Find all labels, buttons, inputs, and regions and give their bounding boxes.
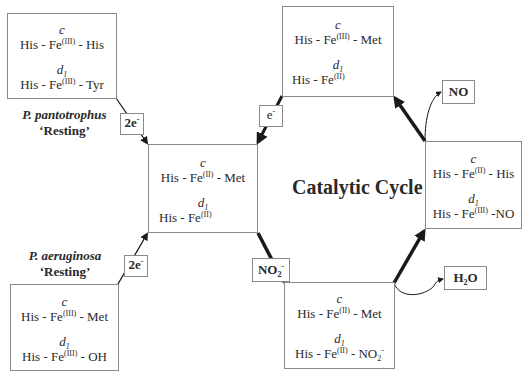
heme-c-ligation: His - Fe(III) - His — [8, 37, 116, 52]
heme-c-label: c — [283, 17, 393, 32]
heme-c-label: c — [11, 294, 118, 309]
heme-c-label: c — [426, 151, 521, 166]
diagram-title: Catalytic Cycle — [292, 176, 423, 199]
label-two-electrons-bottom: 2e- — [124, 255, 148, 277]
heme-d1-ligation: His - Fe(II) — [149, 210, 257, 225]
heme-c-ligation: His - Fe(II) - Met — [285, 306, 394, 321]
species-label-pantotrophus: P. pantotrophus ‘Resting’ — [12, 107, 117, 139]
state-box-nitrosyl: c His - Fe(II) - His d1 His - Fe(III) -N… — [425, 141, 522, 229]
label-one-electron: e- — [259, 105, 283, 127]
heme-d1-label: d1 — [426, 191, 521, 206]
heme-c-ligation: His - Fe(III) - Met — [11, 309, 118, 324]
species-label-aeruginosa: P. aeruginosa ‘Resting’ — [15, 248, 115, 280]
heme-d1-label: d1 — [283, 57, 393, 72]
heme-d1-label: d1 — [149, 195, 257, 210]
label-nitric-oxide: NO — [442, 80, 475, 104]
heme-d1-ligation: His - Fe(III) - Tyr — [8, 77, 116, 92]
state-box-top: c His - Fe(III) - Met d1 His - Fe(II) — [282, 6, 394, 97]
heme-c-ligation: His - Fe(II) - His — [426, 166, 521, 181]
heme-c-label: c — [8, 22, 116, 37]
heme-c-label: c — [285, 291, 394, 306]
arrow-water-release — [394, 279, 443, 295]
heme-c-ligation: His - Fe(II) - Met — [149, 170, 257, 185]
heme-d1-ligation: His - Fe(III) -NO — [426, 206, 521, 221]
state-box-reduced: c His - Fe(II) - Met d1 His - Fe(II) — [148, 144, 258, 233]
heme-d1-ligation: His - Fe(II) - NO2- — [285, 346, 394, 361]
arrow-no-release — [425, 92, 441, 141]
heme-d1-ligation: His - Fe(III) - OH — [11, 349, 118, 364]
heme-d1-ligation: His - Fe(II) — [283, 72, 393, 87]
arrow-nitrite-bound-to-nitrosyl — [394, 231, 424, 283]
heme-d1-label: d1 — [285, 331, 394, 346]
heme-c-label: c — [149, 155, 257, 170]
state-box-aeruginosa-resting: c His - Fe(III) - Met d1 His - Fe(III) -… — [10, 284, 119, 371]
label-nitrite: NO2- — [252, 258, 290, 282]
state-box-nitrite-bound: c His - Fe(II) - Met d1 His - Fe(II) - N… — [284, 282, 395, 369]
heme-c-ligation: His - Fe(III) - Met — [283, 32, 393, 47]
heme-d1-label: d1 — [8, 62, 116, 77]
arrow-nitrosyl-to-top — [395, 98, 425, 141]
state-box-pantotrophus-resting: c His - Fe(III) - His d1 His - Fe(III) -… — [7, 13, 117, 99]
label-two-electrons-top: 2e- — [120, 113, 144, 135]
label-water: H2O — [444, 266, 487, 290]
heme-d1-label: d1 — [11, 334, 118, 349]
